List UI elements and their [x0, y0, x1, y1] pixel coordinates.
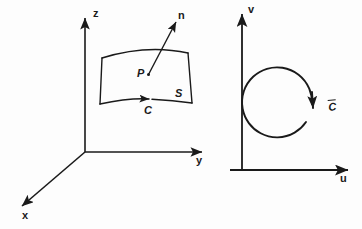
axis-label-z: z: [93, 8, 99, 19]
axis-label-u: u: [340, 173, 347, 184]
point-label-P: P: [137, 68, 144, 79]
axis-label-v: v: [248, 4, 254, 15]
parameter-curve-label-C-bar: C: [328, 99, 337, 113]
boundary-label-C: C: [144, 105, 152, 116]
diagram-vector-graphics: [0, 0, 362, 229]
normal-vector-n: [149, 22, 177, 75]
parameter-curve-C-bar: [242, 67, 313, 137]
parameter-curve-label-C-bar-text: C: [328, 99, 337, 113]
axis-label-x: x: [22, 210, 28, 221]
axis-x: [22, 152, 85, 206]
surface-label-S: S: [175, 88, 182, 99]
figure-canvas: z y x n P C S v u C: [0, 0, 362, 229]
axis-label-y: y: [196, 155, 202, 166]
normal-vector-label-n: n: [178, 10, 185, 21]
